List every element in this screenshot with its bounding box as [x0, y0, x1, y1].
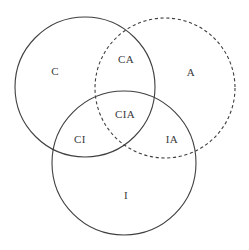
venn-diagram-canvas: C CA A CI CIA IA I [0, 0, 249, 250]
region-label-i: I [124, 189, 128, 201]
region-label-ca: CA [118, 53, 134, 65]
region-label-c: C [51, 65, 59, 77]
region-label-a: A [187, 66, 195, 78]
region-label-cia: CIA [115, 108, 135, 120]
region-label-ia: IA [166, 133, 178, 145]
venn-diagram: C CA A CI CIA IA I [0, 0, 249, 250]
region-label-ci: CI [74, 133, 86, 145]
